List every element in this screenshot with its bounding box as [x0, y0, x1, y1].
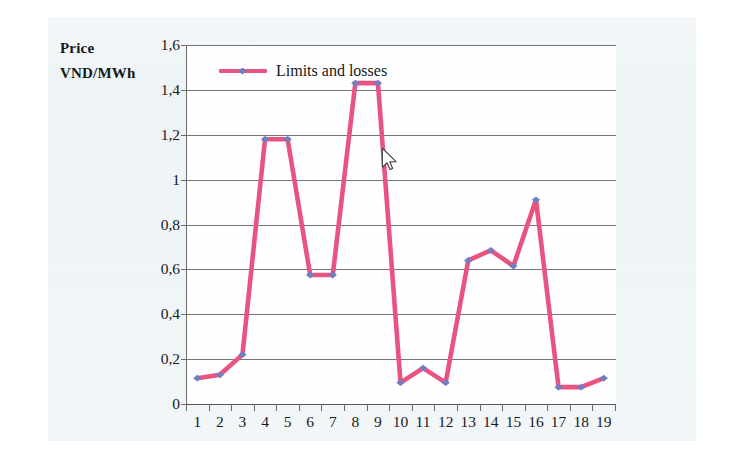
- x-tick-label-11: 11: [416, 413, 431, 431]
- x-tick-label-16: 16: [528, 413, 544, 431]
- y-axis-title-line-1: Price: [60, 36, 136, 61]
- y-axis-tick-labels: 00,20,40,60,811,21,41,6: [136, 45, 180, 404]
- x-tickmark: [547, 404, 548, 411]
- legend-swatch-limits-and-losses: [219, 65, 267, 77]
- data-point-9: [374, 80, 382, 87]
- y-tick-label-0: 0: [172, 395, 180, 413]
- x-tickmark: [344, 404, 345, 411]
- data-point-6: [306, 272, 314, 279]
- y-tick-label-0-6: 0,6: [161, 260, 180, 278]
- y-tick-label-1-6: 1,6: [161, 36, 180, 54]
- data-point-5: [283, 136, 291, 143]
- x-tickmark: [570, 404, 571, 411]
- x-tickmark: [502, 404, 503, 411]
- y-tick-label-1: 1: [172, 171, 180, 189]
- x-tickmark: [525, 404, 526, 411]
- x-tick-label-6: 6: [306, 413, 314, 431]
- x-tick-label-14: 14: [483, 413, 499, 431]
- x-tick-label-8: 8: [351, 413, 359, 431]
- x-tick-label-1: 1: [193, 413, 201, 431]
- x-tick-label-4: 4: [261, 413, 269, 431]
- x-tick-label-19: 19: [596, 413, 612, 431]
- screenshot-root: Price VND/MWh 00,20,40,60,811,21,41,6 12…: [0, 0, 734, 468]
- x-tick-label-3: 3: [239, 413, 247, 431]
- y-tick-label-0-8: 0,8: [161, 216, 180, 234]
- y-tick-label-0-4: 0,4: [161, 305, 180, 323]
- data-point-17: [554, 384, 562, 391]
- x-tick-label-10: 10: [393, 413, 409, 431]
- x-tick-label-2: 2: [216, 413, 224, 431]
- x-tickmark: [367, 404, 368, 411]
- x-tickmark: [480, 404, 481, 411]
- data-point-8: [351, 80, 359, 87]
- x-tick-label-12: 12: [438, 413, 454, 431]
- data-point-4: [261, 136, 269, 143]
- x-tickmark: [186, 404, 187, 411]
- chart-legend: Limits and losses: [219, 62, 387, 80]
- series-line-0: [197, 83, 603, 387]
- x-tick-label-17: 17: [551, 413, 567, 431]
- data-point-7: [329, 272, 337, 279]
- x-tick-label-15: 15: [506, 413, 522, 431]
- x-tick-label-9: 9: [374, 413, 382, 431]
- x-tickmark: [321, 404, 322, 411]
- series-limits-and-losses: [186, 45, 615, 404]
- legend-label-limits-and-losses: Limits and losses: [276, 62, 387, 80]
- x-tick-label-7: 7: [329, 413, 337, 431]
- x-tickmark: [412, 404, 413, 411]
- x-tickmark: [209, 404, 210, 411]
- x-tickmark: [615, 404, 616, 411]
- y-axis-title-line-2: VND/MWh: [60, 61, 136, 86]
- y-tick-label-0-2: 0,2: [161, 350, 180, 368]
- y-tick-label-1-4: 1,4: [161, 81, 180, 99]
- y-tick-label-1-2: 1,2: [161, 126, 180, 144]
- x-axis: 12345678910111213141516171819: [186, 404, 615, 448]
- x-tickmark: [389, 404, 390, 411]
- x-tickmark: [592, 404, 593, 411]
- x-tickmark: [254, 404, 255, 411]
- y-axis-title: Price VND/MWh: [60, 36, 136, 86]
- x-tickmark: [231, 404, 232, 411]
- x-tick-label-13: 13: [460, 413, 476, 431]
- mouse-pointer-icon: [381, 147, 399, 173]
- x-tickmark: [434, 404, 435, 411]
- x-tick-label-18: 18: [573, 413, 589, 431]
- x-tickmark: [457, 404, 458, 411]
- x-tick-label-5: 5: [284, 413, 292, 431]
- x-tickmark: [299, 404, 300, 411]
- x-tickmark: [276, 404, 277, 411]
